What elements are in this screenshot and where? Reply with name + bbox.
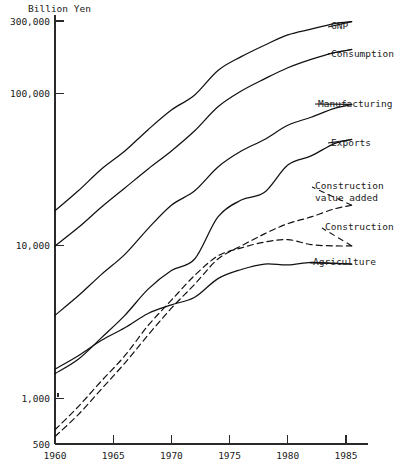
x-tick-label: 1960	[44, 450, 67, 461]
line-chart-svg: 300,000100,00010,0001,000500 19601965197…	[0, 0, 394, 469]
series-labels: GNPConsumptionManufacturingExportsConstr…	[313, 20, 394, 267]
series-label-gnp: GNP	[331, 20, 348, 31]
series-line-agriculture	[55, 262, 352, 369]
y-axis-ticks: 300,000100,00010,0001,000500	[10, 16, 64, 450]
y-tick-label: 300,000	[10, 16, 50, 27]
unit-label: Billion Yen	[28, 3, 91, 14]
y-tick-label: 100,000	[10, 88, 50, 99]
series-label-consumption: Consumption	[331, 48, 394, 59]
x-tick-label: 1975	[218, 450, 241, 461]
y-tick-label: 10,000	[16, 240, 51, 251]
series-line-construction	[55, 240, 352, 430]
y-tick-label: 1,000	[21, 393, 50, 404]
axes	[55, 15, 368, 444]
series-label-construction: Construction	[325, 221, 394, 232]
data-series	[55, 22, 352, 437]
chart-container: 300,000100,00010,0001,000500 19601965197…	[0, 0, 394, 469]
series-line-manufacturing	[55, 104, 352, 315]
x-tick-label: 1985	[335, 450, 358, 461]
y-tick-label: 500	[33, 439, 50, 450]
series-label-construction-value-added-line-1: Construction	[315, 180, 384, 191]
series-label-exports: Exports	[331, 137, 371, 148]
series-line-consumption	[55, 49, 352, 245]
series-label-construction-value-added-line-2: value added	[315, 192, 378, 203]
x-tick-label: 1980	[276, 450, 299, 461]
x-axis-ticks: 196019651970197519801985	[44, 435, 358, 461]
x-tick-label: 1970	[160, 450, 183, 461]
series-line-exports	[55, 139, 352, 373]
series-label-manufacturing: Manufacturing	[318, 98, 392, 109]
series-label-agriculture: Agriculture	[313, 256, 376, 267]
series-line-construction-value-added	[55, 205, 352, 436]
x-tick-label: 1965	[102, 450, 125, 461]
y-axis-unit-label: Billion Yen	[28, 3, 91, 14]
